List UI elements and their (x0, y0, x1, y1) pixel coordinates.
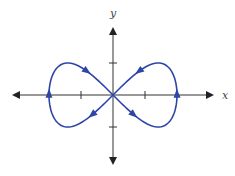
figure-eight-diagram (0, 0, 235, 176)
arrow-icon (45, 89, 52, 98)
x-axis-label: x (222, 89, 228, 102)
arrow-icon (173, 89, 180, 98)
y-axis-label: y (110, 7, 116, 20)
